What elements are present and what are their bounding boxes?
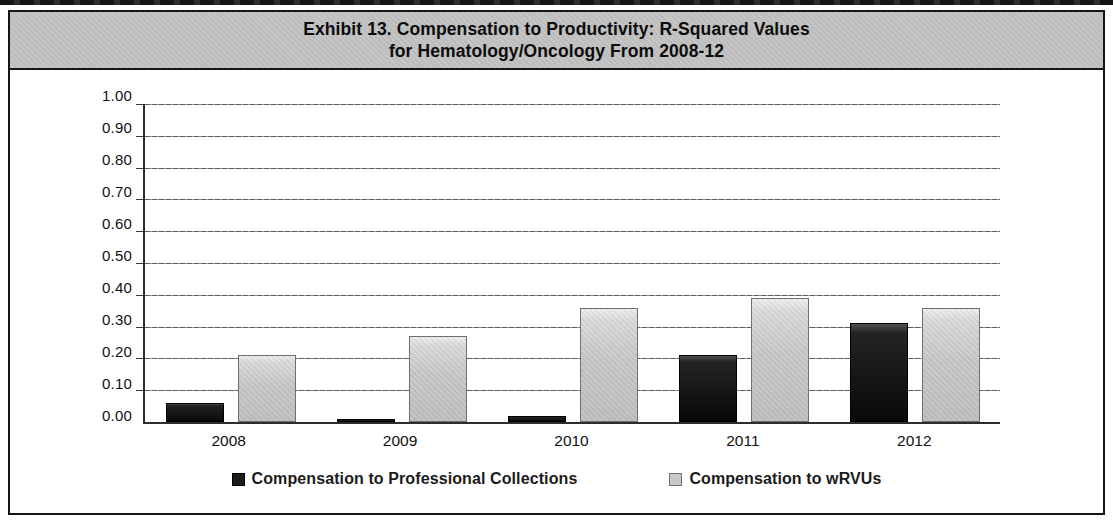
- legend-swatch-wrvus: [669, 473, 682, 486]
- chart-title-line2: for Hematology/Oncology From 2008-12: [389, 40, 724, 62]
- y-axis-tick: [136, 390, 143, 391]
- legend: Compensation to Professional Collections…: [10, 470, 1103, 488]
- bar-wrvus-2010: [580, 308, 638, 422]
- x-tick-label-2010: 2010: [554, 432, 588, 450]
- bar-collections-2009: [337, 419, 395, 422]
- y-tick-label: 0.50: [102, 247, 132, 264]
- page-top-rule: [0, 0, 1113, 5]
- legend-label-wrvus: Compensation to wRVUs: [689, 470, 881, 488]
- y-tick-label: 0.20: [102, 343, 132, 360]
- bar-collections-2008: [166, 403, 224, 422]
- chart-title-line1: Exhibit 13. Compensation to Productivity…: [303, 18, 810, 40]
- x-tick-label-2008: 2008: [211, 432, 245, 450]
- y-tick-label: 1.00: [102, 87, 132, 104]
- x-axis: 20082009201020112012: [143, 432, 1000, 454]
- y-axis-tick: [136, 104, 143, 105]
- bar-wrvus-2011: [751, 298, 809, 422]
- y-tick-label: 0.10: [102, 375, 132, 392]
- bar-collections-2011: [679, 355, 737, 422]
- bar-wrvus-2012: [922, 308, 980, 422]
- y-tick-label: 0.80: [102, 151, 132, 168]
- y-axis-tick: [136, 263, 143, 264]
- bar-group-2009: [316, 104, 487, 422]
- bar-collections-2010: [508, 416, 566, 422]
- y-axis-tick: [136, 327, 143, 328]
- y-tick-label: 0.40: [102, 279, 132, 296]
- x-tick-label-2009: 2009: [383, 432, 417, 450]
- bar-collections-2012: [850, 323, 908, 422]
- bar-group-2008: [145, 104, 316, 422]
- bar-wrvus-2009: [409, 336, 467, 422]
- legend-entry-wrvus: Compensation to wRVUs: [669, 470, 881, 488]
- bar-group-2012: [829, 104, 1000, 422]
- y-axis-tick: [136, 231, 143, 232]
- legend-label-collections: Compensation to Professional Collections: [252, 470, 578, 488]
- plot-area: [143, 104, 1000, 424]
- y-axis-tick: [136, 168, 143, 169]
- chart-area: 0.000.100.200.300.400.500.600.700.800.90…: [10, 70, 1103, 511]
- chart-title-banner: Exhibit 13. Compensation to Productivity…: [10, 12, 1103, 70]
- y-axis-tick: [136, 136, 143, 137]
- legend-swatch-collections: [232, 473, 245, 486]
- y-axis-tick: [136, 295, 143, 296]
- y-axis-tick: [136, 199, 143, 200]
- legend-entry-collections: Compensation to Professional Collections: [232, 470, 578, 488]
- bar-group-2011: [658, 104, 829, 422]
- x-tick-label-2012: 2012: [897, 432, 931, 450]
- x-tick-label-2011: 2011: [726, 432, 759, 450]
- y-tick-label: 0.90: [102, 119, 132, 136]
- y-tick-label: 0.00: [102, 407, 132, 424]
- y-tick-label: 0.70: [102, 183, 132, 200]
- y-axis: 0.000.100.200.300.400.500.600.700.800.90…: [10, 104, 132, 424]
- y-tick-label: 0.60: [102, 215, 132, 232]
- bar-wrvus-2008: [238, 355, 296, 422]
- y-axis-tick: [136, 358, 143, 359]
- figure-frame: Exhibit 13. Compensation to Productivity…: [8, 10, 1105, 515]
- y-tick-label: 0.30: [102, 311, 132, 328]
- bar-group-2010: [487, 104, 658, 422]
